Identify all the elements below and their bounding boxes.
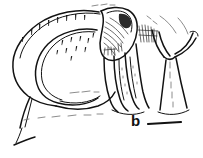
panel-label: b: [131, 113, 140, 128]
seta: [57, 50, 59, 55]
inner-lobe-base-fold: [60, 96, 100, 103]
y-fork-group: [152, 16, 198, 114]
lower-dash: [68, 115, 76, 116]
right-faint-dash: [147, 16, 151, 19]
segment-band-inner-line: [119, 60, 124, 100]
seta: [75, 14, 76, 20]
setae-group-disc: [57, 33, 95, 61]
top-dash: [101, 4, 107, 5]
line-drawing-canvas: [0, 0, 203, 158]
seta: [88, 38, 90, 43]
inner-lobe-faint-dash: [70, 92, 79, 93]
seta: [31, 29, 32, 35]
seta: [71, 37, 73, 42]
outer-lobe-group: [13, 11, 115, 110]
setae-group-rim: [22, 14, 85, 42]
bristle-row-base: [138, 30, 158, 31]
lower-dash: [38, 117, 45, 118]
segment-band-edge: [125, 53, 139, 109]
bristle: [111, 47, 112, 55]
fork-junction: [164, 57, 175, 59]
seta: [76, 46, 78, 51]
bristle: [139, 26, 141, 42]
seta: [85, 47, 87, 52]
central-dark-lobe-group: [100, 7, 137, 60]
bristle: [142, 25, 144, 42]
fork-stem-right: [176, 58, 187, 108]
fork-stem-base: [158, 110, 189, 114]
right-faint-dash: [153, 21, 157, 24]
seta: [93, 33, 95, 38]
seta: [48, 20, 49, 26]
bristle: [121, 43, 122, 51]
bristle: [104, 48, 105, 55]
fork-right-arm-inner: [175, 33, 193, 54]
dark-lobe-striation: [105, 27, 123, 43]
fork-faint-upper-edge: [178, 18, 188, 34]
bristle: [156, 31, 157, 43]
seta: [22, 37, 23, 42]
bristle: [145, 25, 147, 42]
scale-bar: [148, 122, 181, 124]
lower-left-hook: [16, 128, 22, 143]
seta: [57, 17, 58, 23]
bristle: [151, 27, 152, 42]
fork-faint-upper-edge: [160, 16, 176, 33]
seta: [66, 15, 67, 21]
fork-right-arm: [175, 38, 196, 57]
segment-band-edge: [136, 44, 149, 108]
bristle: [148, 26, 149, 42]
seta: [80, 36, 82, 41]
inner-lobe-faint-dash: [82, 91, 90, 92]
seta: [71, 56, 73, 61]
seta: [66, 48, 68, 53]
top-dash: [92, 5, 98, 6]
seta: [62, 40, 64, 45]
fork-stem-left: [160, 60, 166, 110]
figure-panel-b: b: [0, 0, 203, 158]
lower-left-descender-inner: [25, 99, 32, 127]
lower-dash: [52, 116, 60, 117]
seta: [84, 15, 85, 20]
outer-lobe-lower-edge: [56, 92, 115, 109]
lower-dash: [24, 119, 29, 120]
fork-right-tip-curl: [190, 31, 198, 36]
inner-lobe-group: [36, 29, 101, 105]
